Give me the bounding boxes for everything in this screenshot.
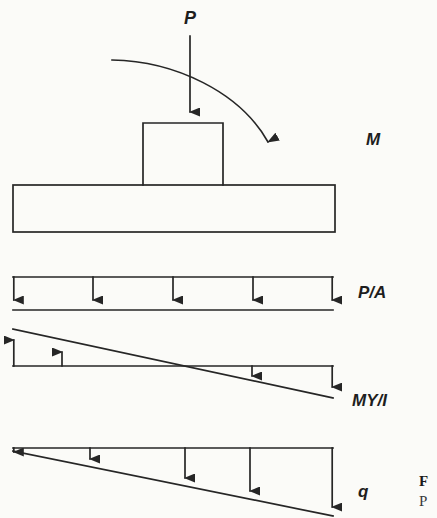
- myi-slope-line: [13, 329, 333, 398]
- q-slope-line: [13, 451, 333, 516]
- caption-line-2: P: [419, 493, 427, 509]
- footing-outline: [13, 185, 335, 232]
- panel-resultant-pressure: [13, 448, 333, 516]
- panel-bending-pressure: [13, 329, 333, 398]
- label-uniform-pressure: P/A: [358, 283, 386, 302]
- label-axial-load: P: [184, 8, 197, 28]
- footing-pressure-diagram: P M P/A MY/I q F P: [0, 0, 437, 518]
- panel-axial-pressure: [13, 277, 333, 310]
- figure-container: P M P/A MY/I q F P: [0, 0, 437, 518]
- label-resultant-pressure: q: [358, 482, 369, 501]
- column-outline: [143, 123, 223, 185]
- label-bending-pressure: MY/I: [352, 391, 388, 410]
- caption-line-1: F: [419, 473, 428, 489]
- label-moment: M: [366, 130, 381, 149]
